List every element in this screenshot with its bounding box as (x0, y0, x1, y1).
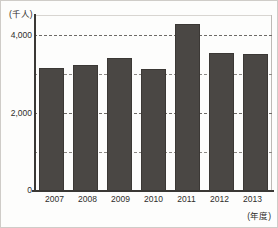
bar-2010 (141, 69, 166, 191)
x-axis-tick-label-group: 2007 2008 2009 2010 2011 2012 2013 (34, 195, 272, 209)
x-tick-label-2009: 2009 (104, 195, 137, 204)
bars-layer (34, 15, 272, 191)
x-axis-line (32, 190, 274, 192)
y-axis-line (34, 14, 36, 192)
plot-area (34, 15, 272, 191)
y-tick-label-4000: 4,000 (11, 31, 32, 40)
x-tick-label-2011: 2011 (170, 195, 203, 204)
bar-2008 (73, 65, 98, 191)
bar-2007 (39, 68, 64, 191)
x-tick-label-2012: 2012 (203, 195, 236, 204)
x-tick-label-2008: 2008 (71, 195, 104, 204)
x-axis-unit-label: (年度) (247, 209, 271, 221)
y-axis-tick-label-group: 4,000 2,000 0 (1, 1, 32, 228)
bar-2009 (107, 58, 132, 191)
bar-chart-figure: (千人) 4,000 2,000 0 2007 2008 2009 2010 2… (0, 0, 278, 228)
x-tick-label-2013: 2013 (236, 195, 269, 204)
x-tick-label-2007: 2007 (38, 195, 71, 204)
bar-2012 (209, 53, 234, 191)
y-tick-label-2000: 2,000 (11, 109, 32, 118)
bar-2013 (243, 54, 268, 191)
bar-2011 (175, 24, 200, 191)
x-tick-label-2010: 2010 (137, 195, 170, 204)
